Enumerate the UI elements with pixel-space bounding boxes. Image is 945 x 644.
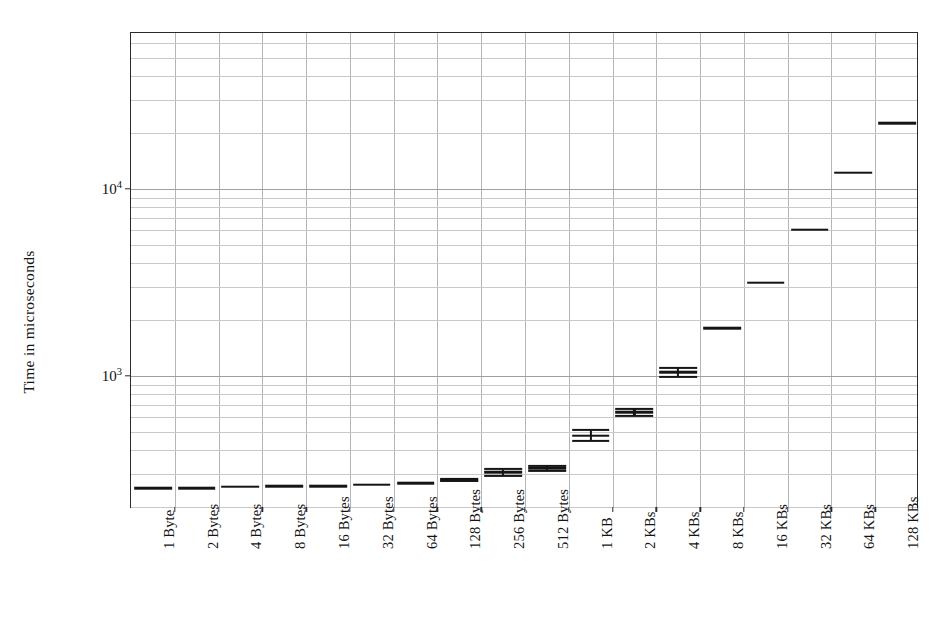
x-tick-label: 8 Bytes	[291, 409, 309, 549]
x-tick-label: 64 Bytes	[423, 409, 441, 549]
x-tick-label: 32 KBs	[817, 409, 835, 549]
x-tick-mark	[524, 507, 525, 512]
x-tick-label: 2 KBs	[641, 409, 659, 549]
x-tick-label: 1 Byte	[160, 409, 178, 549]
grid-line-horizontal	[131, 58, 917, 59]
x-tick-mark	[262, 507, 263, 512]
x-tick-label: 16 KBs	[773, 409, 791, 549]
x-tick-label: 4 KBs	[685, 409, 703, 549]
plot-area: 104103 1 Byte2 Bytes4 Bytes8 Bytes16 Byt…	[130, 32, 918, 508]
x-tick-mark	[743, 507, 744, 512]
grid-line-horizontal	[131, 287, 917, 288]
x-tick-mark	[393, 507, 394, 512]
x-tick-mark	[349, 507, 350, 512]
grid-line-horizontal	[131, 394, 917, 395]
grid-line-horizontal	[131, 43, 917, 44]
grid-line-horizontal	[131, 189, 917, 190]
grid-line-horizontal	[131, 385, 917, 386]
x-tick-label: 4 Bytes	[247, 409, 265, 549]
y-axis-title: Time in microseconds	[0, 0, 58, 644]
grid-line-horizontal	[131, 405, 917, 406]
grid-line-horizontal	[131, 245, 917, 246]
x-tick-mark	[568, 507, 569, 512]
x-tick-mark	[875, 507, 876, 512]
x-tick-label: 1 KB	[598, 409, 616, 549]
data-marker	[835, 172, 873, 175]
x-tick-mark	[656, 507, 657, 512]
y-tick-mark	[125, 375, 131, 376]
x-tick-label: 8 KBs	[729, 409, 747, 549]
x-tick-mark	[699, 507, 700, 512]
x-tick-label: 256 Bytes	[510, 409, 528, 549]
x-tick-mark	[305, 507, 306, 512]
chart-figure: Time in microseconds 104103 1 Byte2 Byte…	[0, 0, 945, 644]
x-tick-label: 512 Bytes	[554, 409, 572, 549]
grid-line-horizontal	[131, 100, 917, 101]
x-tick-mark	[174, 507, 175, 512]
data-marker	[659, 371, 697, 374]
x-tick-label: 128 KBs	[904, 409, 922, 549]
y-tick-mark	[125, 188, 131, 189]
x-tick-label: 32 Bytes	[379, 409, 397, 549]
data-marker	[747, 282, 785, 285]
x-tick-mark	[218, 507, 219, 512]
data-marker	[791, 229, 829, 232]
x-tick-mark	[612, 507, 613, 512]
data-marker	[703, 327, 741, 330]
x-tick-mark	[437, 507, 438, 512]
x-tick-label: 16 Bytes	[335, 409, 353, 549]
grid-line-horizontal	[131, 207, 917, 208]
x-tick-mark	[787, 507, 788, 512]
x-tick-label: 64 KBs	[860, 409, 878, 549]
error-bar-cap-lower	[659, 376, 697, 378]
x-tick-label: 2 Bytes	[204, 409, 222, 549]
grid-line-horizontal	[131, 218, 917, 219]
error-bar-cap-upper	[659, 366, 697, 368]
data-marker	[878, 122, 916, 125]
grid-line-horizontal	[131, 376, 917, 377]
grid-line-horizontal	[131, 198, 917, 199]
x-tick-mark	[481, 507, 482, 512]
grid-line-horizontal	[131, 263, 917, 264]
grid-line-horizontal	[131, 76, 917, 77]
x-tick-label: 128 Bytes	[466, 409, 484, 549]
grid-line-horizontal	[131, 133, 917, 134]
x-tick-mark	[831, 507, 832, 512]
grid-line-horizontal	[131, 320, 917, 321]
